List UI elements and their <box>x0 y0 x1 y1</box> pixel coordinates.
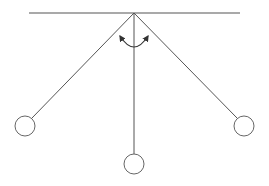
bob-center <box>124 154 144 174</box>
bob-right <box>234 116 254 136</box>
diagram-svg <box>0 0 269 186</box>
bob-left <box>15 116 35 136</box>
pendulum-diagram <box>0 0 269 186</box>
string-right <box>134 13 237 118</box>
string-left <box>32 13 134 118</box>
